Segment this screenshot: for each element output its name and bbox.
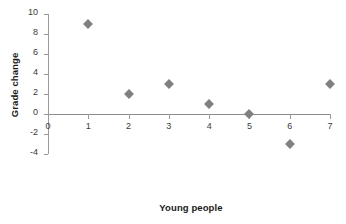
x-tick-label: 0 bbox=[45, 121, 50, 131]
y-tick-label: 10 bbox=[28, 7, 38, 17]
y-tick-label: 2 bbox=[33, 87, 38, 97]
x-tick-label: 3 bbox=[166, 121, 171, 131]
y-tick: 8 bbox=[44, 34, 48, 35]
data-point bbox=[325, 79, 335, 89]
x-tick-label: 6 bbox=[287, 121, 292, 131]
x-tick: 3 bbox=[169, 114, 170, 119]
y-tick: 6 bbox=[44, 54, 48, 55]
data-point bbox=[285, 139, 295, 149]
x-tick: 1 bbox=[88, 114, 89, 119]
plot-area: 1086420-2-4 01234567 bbox=[48, 14, 330, 154]
x-tick-label: 5 bbox=[247, 121, 252, 131]
y-axis-title: Grade change bbox=[9, 15, 22, 155]
y-tick-label: 8 bbox=[33, 27, 38, 37]
data-point bbox=[164, 79, 174, 89]
x-tick-label: 1 bbox=[86, 121, 91, 131]
y-tick: 4 bbox=[44, 74, 48, 75]
y-tick-label: -2 bbox=[30, 127, 38, 137]
y-tick-label: 6 bbox=[33, 47, 38, 57]
x-tick-label: 2 bbox=[126, 121, 131, 131]
y-tick: -4 bbox=[44, 154, 48, 155]
x-tick: 0 bbox=[48, 114, 49, 119]
scatter-chart: Grade change 1086420-2-4 01234567 Young … bbox=[0, 0, 346, 224]
y-tick-label: 0 bbox=[33, 107, 38, 117]
x-tick: 2 bbox=[129, 114, 130, 119]
x-tick: 4 bbox=[209, 114, 210, 119]
x-tick-label: 7 bbox=[327, 121, 332, 131]
y-tick-label: -4 bbox=[30, 147, 38, 157]
y-tick: 2 bbox=[44, 94, 48, 95]
y-axis-line bbox=[48, 14, 49, 154]
data-point bbox=[244, 109, 254, 119]
x-tick: 6 bbox=[290, 114, 291, 119]
data-point bbox=[204, 99, 214, 109]
data-point bbox=[124, 89, 134, 99]
x-axis-title: Young people bbox=[0, 202, 346, 213]
x-axis-line bbox=[48, 114, 330, 115]
y-tick: 10 bbox=[44, 14, 48, 15]
y-tick: -2 bbox=[44, 134, 48, 135]
x-tick: 7 bbox=[330, 114, 331, 119]
y-tick-label: 4 bbox=[33, 67, 38, 77]
data-point bbox=[83, 19, 93, 29]
x-tick-label: 4 bbox=[207, 121, 212, 131]
